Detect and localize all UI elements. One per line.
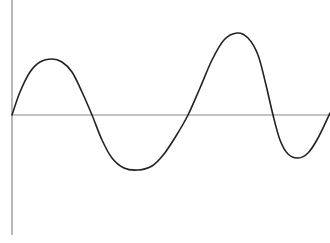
line-chart (0, 0, 330, 243)
data-series-line (12, 33, 330, 170)
